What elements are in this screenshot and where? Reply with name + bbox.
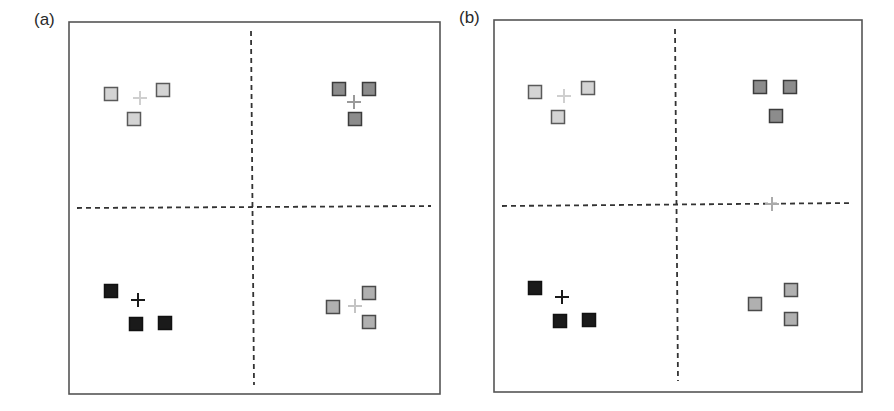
centroid-plus-icon-bottom-right xyxy=(348,299,362,313)
centroid-plus-icon-bottom-left xyxy=(131,293,145,307)
data-point-square-top-right xyxy=(363,83,376,96)
diagram-canvas xyxy=(0,0,894,411)
data-point-square-top-right xyxy=(333,83,346,96)
data-point-square-top-left xyxy=(157,84,170,97)
panel-b-horizontal-divider xyxy=(502,203,853,206)
data-point-square-top-right xyxy=(784,81,797,94)
data-point-square-bottom-left xyxy=(529,282,542,295)
data-point-square-bottom-left xyxy=(105,285,118,298)
data-point-square-top-right xyxy=(349,113,362,126)
centroid-plus-icon-top-left xyxy=(133,91,147,105)
data-point-square-bottom-left xyxy=(130,318,143,331)
data-point-square-bottom-left xyxy=(554,315,567,328)
centroid-plus-icon-bottom-left xyxy=(555,290,569,304)
data-point-square-top-right xyxy=(754,81,767,94)
data-point-square-top-left xyxy=(105,88,118,101)
data-point-square-top-left xyxy=(582,82,595,95)
panel-a-vertical-divider xyxy=(251,31,254,385)
data-point-square-bottom-left xyxy=(583,314,596,327)
data-point-square-top-left xyxy=(128,113,141,126)
centroid-plus-icon-top-right xyxy=(347,95,361,109)
data-point-square-bottom-right xyxy=(785,313,798,326)
data-point-square-bottom-right xyxy=(785,284,798,297)
centroid-plus-icon-top-left xyxy=(557,89,571,103)
data-point-square-bottom-left xyxy=(159,317,172,330)
data-point-square-bottom-right xyxy=(363,287,376,300)
data-point-square-top-right xyxy=(770,110,783,123)
panel-a-horizontal-divider xyxy=(77,206,431,208)
data-point-square-top-left xyxy=(552,111,565,124)
centroid-plus-icon-top-right xyxy=(765,197,779,211)
data-point-square-top-left xyxy=(529,86,542,99)
data-point-square-bottom-right xyxy=(327,301,340,314)
data-point-square-bottom-right xyxy=(749,298,762,311)
data-point-square-bottom-right xyxy=(363,316,376,329)
